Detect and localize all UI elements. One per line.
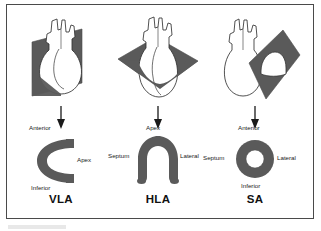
hla-label-apex: Apex bbox=[146, 125, 160, 131]
hla-label-septum: Septum bbox=[108, 153, 129, 159]
vla-label-anterior: Anterior bbox=[29, 125, 51, 131]
sa-label-lateral: Lateral bbox=[277, 155, 296, 161]
sa-label-anterior: Anterior bbox=[238, 125, 260, 131]
sa-panel-title: SA bbox=[205, 193, 305, 205]
hla-cross-section: Apex Septum Lateral bbox=[108, 127, 208, 195]
panel-sa: Anterior Septum Lateral Inferior SA bbox=[205, 5, 305, 218]
hla-heart-with-plane bbox=[108, 11, 208, 107]
sa-heart-with-plane bbox=[205, 11, 305, 107]
page-scan-artifact bbox=[8, 225, 66, 229]
vla-label-inferior: Inferior bbox=[31, 185, 50, 191]
panel-vla: Anterior Apex Inferior VLA bbox=[11, 5, 111, 218]
vla-label-apex: Apex bbox=[77, 157, 91, 163]
vla-heart-with-plane bbox=[11, 11, 111, 107]
figure-frame: Anterior Apex Inferior VLA bbox=[6, 4, 314, 219]
cardiac-imaging-planes-figure: Anterior Apex Inferior VLA bbox=[0, 0, 321, 231]
sa-label-septum: Septum bbox=[203, 155, 224, 161]
sa-cross-section: Anterior Septum Lateral Inferior bbox=[205, 127, 305, 195]
vla-panel-title: VLA bbox=[11, 193, 111, 205]
panel-hla: Apex Septum Lateral HLA bbox=[108, 5, 208, 218]
sa-label-inferior: Inferior bbox=[241, 183, 260, 189]
vla-cross-section: Anterior Apex Inferior bbox=[11, 127, 111, 195]
hla-label-lateral: Lateral bbox=[180, 153, 199, 159]
hla-panel-title: HLA bbox=[108, 193, 208, 205]
